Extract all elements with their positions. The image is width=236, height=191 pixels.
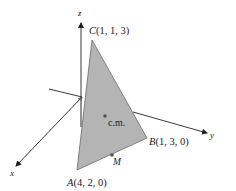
center-of-mass-label: c.m. — [108, 117, 125, 128]
midpoint-m-label: M — [112, 157, 122, 167]
vertex-b-label: B(1, 3, 0) — [149, 136, 189, 148]
vertex-c-label: C(1, 1, 3) — [89, 25, 130, 37]
x-axis — [16, 97, 82, 166]
center-of-mass-point — [103, 114, 107, 118]
vertex-a-coords: (4, 2, 0) — [73, 177, 107, 189]
vertex-b-coords: (1, 3, 0) — [155, 136, 189, 148]
diagram-svg: z x y C(1, 1, 3) B(1, 3, 0) A(4, 2, 0) c… — [0, 0, 236, 191]
y-axis — [133, 112, 207, 133]
z-axis-label: z — [77, 8, 82, 18]
vertex-c-coords: (1, 1, 3) — [96, 25, 130, 37]
vertex-a-label: A(4, 2, 0) — [66, 177, 107, 189]
y-axis-negative — [49, 89, 82, 97]
y-axis-label: y — [209, 130, 214, 140]
x-axis-label: x — [9, 168, 14, 178]
diagram-canvas: z x y C(1, 1, 3) B(1, 3, 0) A(4, 2, 0) c… — [0, 0, 236, 191]
triangle-abc — [77, 40, 147, 170]
